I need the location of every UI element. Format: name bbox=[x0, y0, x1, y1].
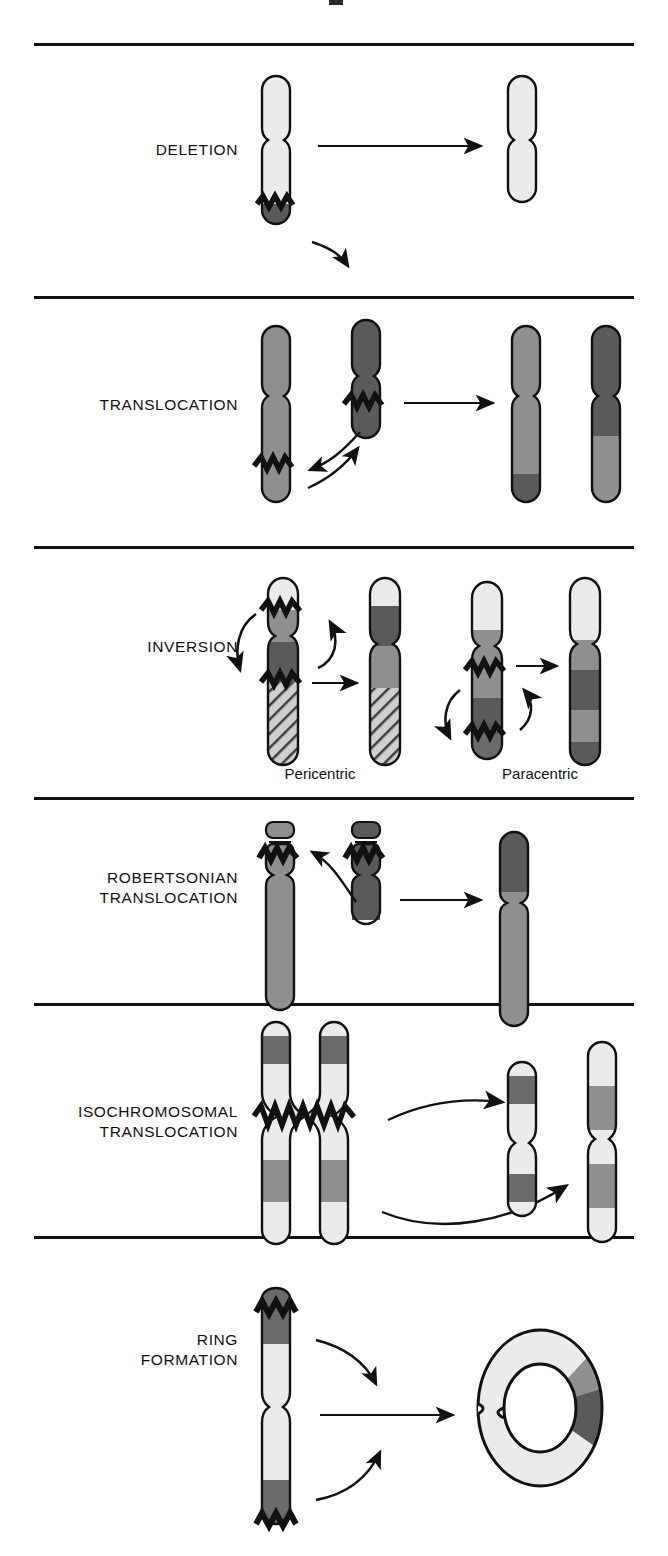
isochromosomal-source-chromosome bbox=[254, 1018, 378, 1278]
isochromosomal-result-chromosome-long bbox=[586, 1040, 620, 1250]
robertsonian-source-chromosome-light bbox=[259, 822, 298, 1030]
translocation-result-chromosome-2 bbox=[590, 324, 624, 514]
ring-chromosome bbox=[478, 1330, 604, 1486]
deletion-diagram bbox=[257, 74, 540, 266]
satellite-cap-light bbox=[266, 822, 294, 838]
inversion-paracentric-source bbox=[465, 580, 504, 784]
robertsonian-fusion-arrow bbox=[312, 852, 356, 902]
translocation-source-chromosome-light bbox=[254, 324, 294, 514]
ring-formation-arrow-top bbox=[316, 1340, 376, 1384]
deletion-result-chromosome bbox=[506, 74, 540, 214]
isochromosomal-result-chromosome-short bbox=[506, 1060, 540, 1230]
deletion-source-chromosome bbox=[257, 74, 294, 240]
isochromosomal-diagram bbox=[254, 1018, 620, 1278]
inversion-diagram bbox=[237, 576, 602, 784]
isochromosomal-result-arrow-lower bbox=[382, 1186, 566, 1224]
translocation-diagram bbox=[254, 318, 624, 514]
translocation-exchange-arrow-left bbox=[310, 432, 360, 470]
deletion-fragment-arrow bbox=[312, 242, 348, 266]
translocation-source-chromosome-dark bbox=[344, 318, 384, 448]
ring-formation-source-chromosome bbox=[256, 1282, 296, 1536]
ring-formation-arrow-bottom bbox=[316, 1452, 380, 1500]
isochromosomal-result-arrow-upper bbox=[388, 1100, 502, 1120]
inversion-paracentric-result bbox=[568, 576, 602, 782]
ring-inner-outline bbox=[504, 1364, 576, 1452]
inversion-pericentric-result bbox=[368, 576, 402, 780]
inversion-paracentric-rotate-left bbox=[445, 690, 460, 738]
satellite-cap-dark bbox=[352, 822, 380, 838]
figure-artwork bbox=[0, 0, 668, 1556]
robertsonian-result-chromosome bbox=[498, 830, 532, 1030]
chromosome-abnormalities-figure: DELETION TRANSLOCATION INVERSION ROBERTS… bbox=[0, 0, 668, 1556]
translocation-result-chromosome-1 bbox=[510, 324, 544, 514]
inversion-pericentric-source bbox=[261, 576, 300, 778]
ring-centromere-notch bbox=[478, 1404, 483, 1414]
robertsonian-source-chromosome-dark bbox=[345, 822, 384, 924]
ring-formation-diagram bbox=[256, 1282, 604, 1536]
robertsonian-diagram bbox=[259, 822, 532, 1030]
inversion-pericentric-rotate-right bbox=[318, 622, 335, 668]
inversion-pericentric-rotate-left bbox=[237, 614, 256, 670]
inversion-paracentric-rotate-right bbox=[520, 690, 531, 730]
